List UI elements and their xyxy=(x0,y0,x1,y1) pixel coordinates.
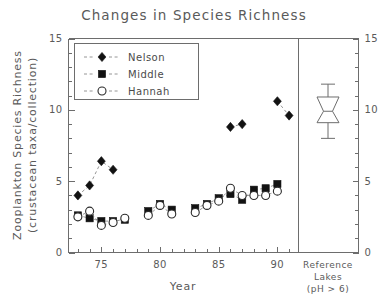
chart-title: Changes in Species Richness xyxy=(81,7,307,23)
data-point-middle-89 xyxy=(262,185,269,192)
data-point-hannah-89 xyxy=(262,191,270,199)
data-point-hannah-88 xyxy=(250,191,258,199)
data-point-hannah-76 xyxy=(109,219,117,227)
data-point-middle-90 xyxy=(274,180,281,187)
species-richness-chart: Changes in Species Richness 051015758085… xyxy=(0,0,389,301)
y-tick-label-0: 0 xyxy=(56,247,63,258)
data-point-hannah-90 xyxy=(273,187,281,195)
legend-label-hannah: Hannah xyxy=(128,86,170,97)
reference-panel-label-line3: (pH > 6) xyxy=(307,284,350,294)
y-tick-label-10: 10 xyxy=(49,104,63,115)
right-tick-group xyxy=(299,40,359,254)
data-point-hannah-75 xyxy=(97,221,105,229)
data-point-hannah-80 xyxy=(156,201,164,209)
right-y-tick-label-10: 10 xyxy=(365,104,379,115)
data-point-nelson-91 xyxy=(285,111,293,120)
legend-label-nelson: Nelson xyxy=(128,52,165,63)
data-point-nelson-86 xyxy=(226,122,234,131)
x-tick-label-85: 85 xyxy=(212,259,226,270)
x-tick-label-75: 75 xyxy=(95,259,109,270)
y-tick-label-5: 5 xyxy=(56,176,63,187)
data-point-hannah-85 xyxy=(215,197,223,205)
boxplot-notched-box xyxy=(317,97,339,123)
data-point-hannah-84 xyxy=(203,201,211,209)
data-point-nelson-90 xyxy=(273,97,281,106)
series-middle xyxy=(74,180,281,224)
data-point-nelson-75 xyxy=(97,157,105,166)
data-point-hannah-74 xyxy=(86,207,94,215)
data-point-hannah-86 xyxy=(226,184,234,192)
data-point-nelson-87 xyxy=(238,120,246,129)
data-point-hannah-79 xyxy=(144,211,152,219)
x-tick-label-80: 80 xyxy=(153,259,167,270)
x-axis-title: Year xyxy=(169,280,197,293)
data-series-layer xyxy=(74,97,293,230)
data-point-hannah-83 xyxy=(191,209,199,217)
data-point-nelson-76 xyxy=(109,165,117,174)
right-y-tick-label-15: 15 xyxy=(365,33,379,44)
series-nelson xyxy=(74,97,293,200)
series-line-nelson-0 xyxy=(78,161,113,195)
legend-marker-filled-square xyxy=(98,70,105,77)
right-y-tick-label-5: 5 xyxy=(365,176,372,187)
reference-panel-label-line1: Reference xyxy=(303,260,353,270)
data-point-hannah-81 xyxy=(168,210,176,218)
data-point-nelson-74 xyxy=(86,181,94,190)
data-point-nelson-73 xyxy=(74,191,82,200)
data-point-hannah-77 xyxy=(121,214,129,222)
data-point-hannah-87 xyxy=(238,191,246,199)
legend-marker-open-circle xyxy=(98,87,106,95)
reference-lakes-boxplot xyxy=(317,84,339,138)
data-point-hannah-73 xyxy=(74,213,82,221)
data-point-middle-74 xyxy=(86,215,93,222)
right-ticklabel-group: 051015 xyxy=(365,33,379,258)
figure-container: Changes in Species Richness 051015758085… xyxy=(0,0,389,301)
y-tick-label-15: 15 xyxy=(49,33,63,44)
x-tick-label-90: 90 xyxy=(271,259,285,270)
legend-label-middle: Middle xyxy=(128,69,164,80)
reference-panel-axes xyxy=(299,39,359,253)
right-y-tick-label-0: 0 xyxy=(365,247,372,258)
y-axis-title: Zooplankton Species Richness xyxy=(11,50,24,240)
chart-legend: NelsonMiddleHannah xyxy=(75,44,199,100)
reference-panel-label-line2: Lakes xyxy=(314,272,342,282)
y-axis-subtitle: (crustacean taxa/collection) xyxy=(26,57,39,233)
